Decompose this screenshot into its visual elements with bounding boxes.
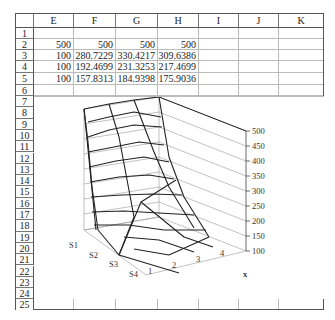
row-header-9[interactable]: 9 [16, 119, 34, 130]
cell-e3[interactable]: 100 [34, 50, 74, 61]
row-header-11[interactable]: 11 [16, 141, 34, 152]
row-header-1[interactable]: 1 [16, 28, 34, 39]
row-header-23[interactable]: 23 [16, 277, 34, 288]
series-label: S2 [89, 250, 98, 260]
cell-g4[interactable]: 231.3253 [116, 61, 158, 73]
column-header-h[interactable]: H [158, 14, 199, 28]
cell-k4[interactable] [279, 61, 323, 73]
z-tick-label: 350 [252, 171, 265, 181]
cell-k3[interactable] [279, 50, 323, 61]
cell-g5[interactable]: 184.9398 [116, 73, 158, 85]
row-header-18[interactable]: 18 [16, 220, 34, 231]
z-axis-labels: 500 450 400 350 300 250 200 150 100 [252, 126, 265, 256]
cell-i1[interactable] [199, 28, 239, 39]
cell-h4[interactable]: 217.4699 [158, 61, 199, 73]
cell-j25[interactable] [239, 299, 279, 309]
column-header-f[interactable]: F [74, 14, 116, 28]
cell-e25[interactable] [34, 299, 74, 309]
cell-f3[interactable]: 280.7229 [74, 50, 116, 61]
row-header-21[interactable]: 21 [16, 254, 34, 265]
cell-g2[interactable]: 500 [116, 39, 158, 50]
cell-h1[interactable] [158, 28, 199, 39]
column-header-e[interactable]: E [34, 14, 74, 28]
row-header-7[interactable]: 7 [16, 96, 34, 107]
cell-j4[interactable] [239, 61, 279, 73]
cell-j3[interactable] [239, 50, 279, 61]
cell-f25[interactable] [74, 299, 116, 309]
cell-i3[interactable] [199, 50, 239, 61]
cell-h3[interactable]: 309.6386 [158, 50, 199, 61]
series-label: S3 [109, 259, 118, 269]
z-tick-label: 500 [252, 126, 265, 136]
cell-f1[interactable] [74, 28, 116, 39]
cell-h6[interactable] [158, 85, 199, 96]
cell-h2[interactable]: 500 [158, 39, 199, 50]
row-header-22[interactable]: 22 [16, 266, 34, 277]
column-header-k[interactable]: K [279, 14, 323, 28]
cell-e4[interactable]: 100 [34, 61, 74, 73]
cell-g1[interactable] [116, 28, 158, 39]
x-tick-label: 2 [172, 260, 176, 270]
row-header-15[interactable]: 15 [16, 186, 34, 197]
cell-g6[interactable] [116, 85, 158, 96]
row-header-3[interactable]: 3 [16, 50, 34, 61]
row-header-8[interactable]: 8 [16, 107, 34, 118]
row-header-19[interactable]: 19 [16, 232, 34, 243]
spreadsheet-grid: E F G H I J K 1 2 3 4 5 6 7 8 9 10 11 12… [15, 13, 324, 310]
row-header-2[interactable]: 2 [16, 39, 34, 50]
x-axis-title: x [243, 269, 248, 279]
row-header-5[interactable]: 5 [16, 73, 34, 85]
series-label: S4 [129, 269, 139, 279]
cell-k6[interactable] [279, 85, 323, 96]
cell-e6[interactable] [34, 85, 74, 96]
row-header-10[interactable]: 10 [16, 130, 34, 141]
series-label: S1 [69, 240, 78, 250]
cell-e1[interactable] [34, 28, 74, 39]
cell-k2[interactable] [279, 39, 323, 50]
cell-g3[interactable]: 330.4217 [116, 50, 158, 61]
row-header-14[interactable]: 14 [16, 175, 34, 186]
cell-k25[interactable] [279, 299, 323, 309]
row-header-4[interactable]: 4 [16, 61, 34, 73]
cell-f6[interactable] [74, 85, 116, 96]
row-header-17[interactable]: 17 [16, 209, 34, 220]
row-header-16[interactable]: 16 [16, 198, 34, 209]
row-header-12[interactable]: 12 [16, 153, 34, 164]
row-header-25[interactable]: 25 [16, 299, 34, 310]
surface-wireframe [84, 97, 213, 273]
cell-h25[interactable] [158, 299, 199, 309]
cell-e2[interactable]: 500 [34, 39, 74, 50]
select-all-corner[interactable] [16, 14, 34, 28]
cell-g25[interactable] [116, 299, 158, 309]
cell-i6[interactable] [199, 85, 239, 96]
cell-j5[interactable] [239, 73, 279, 85]
row-header-6[interactable]: 6 [16, 85, 34, 96]
surface-chart-svg: 500 450 400 350 300 250 200 150 100 [34, 97, 324, 300]
x-tick-label: 1 [148, 266, 152, 276]
column-header-j[interactable]: J [239, 14, 279, 28]
cell-j2[interactable] [239, 39, 279, 50]
z-tick-label: 400 [252, 156, 265, 166]
cell-i2[interactable] [199, 39, 239, 50]
cell-f2[interactable]: 500 [74, 39, 116, 50]
cell-e5[interactable]: 100 [34, 73, 74, 85]
cell-k5[interactable] [279, 73, 323, 85]
cell-f4[interactable]: 192.4699 [74, 61, 116, 73]
column-header-i[interactable]: I [199, 14, 239, 28]
cell-i25[interactable] [199, 299, 239, 309]
row-header-13[interactable]: 13 [16, 164, 34, 175]
cell-h5[interactable]: 175.9036 [158, 73, 199, 85]
cell-i4[interactable] [199, 61, 239, 73]
cell-f5[interactable]: 157.8313 [74, 73, 116, 85]
z-tick-label: 450 [252, 141, 265, 151]
row-header-20[interactable]: 20 [16, 243, 34, 254]
cell-i5[interactable] [199, 73, 239, 85]
cell-k1[interactable] [279, 28, 323, 39]
cell-j6[interactable] [239, 85, 279, 96]
surface-chart[interactable]: 500 450 400 350 300 250 200 150 100 [34, 96, 324, 299]
row-header-24[interactable]: 24 [16, 288, 34, 299]
x-tick-label: 3 [196, 254, 200, 264]
z-tick-label: 100 [252, 246, 265, 256]
column-header-g[interactable]: G [116, 14, 158, 28]
cell-j1[interactable] [239, 28, 279, 39]
